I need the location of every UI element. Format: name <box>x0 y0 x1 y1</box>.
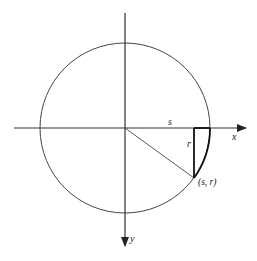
highlighted-arc <box>194 128 210 178</box>
label-s: s <box>168 116 172 127</box>
label-x-axis: x <box>231 131 237 142</box>
radius-line <box>125 128 194 178</box>
label-point-sr: (s, r) <box>198 177 216 188</box>
unit-circle-diagram: s r x y (s, r) <box>0 0 257 261</box>
label-y-axis: y <box>129 233 135 244</box>
label-r: r <box>187 138 191 149</box>
